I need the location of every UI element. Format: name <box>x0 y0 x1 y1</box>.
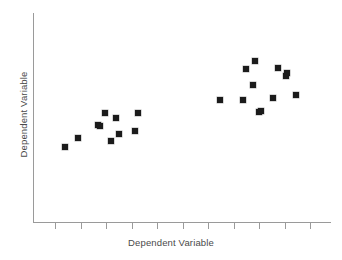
data-point <box>102 110 108 116</box>
data-point <box>132 128 138 134</box>
data-point <box>270 95 276 101</box>
data-point <box>97 123 103 129</box>
scatter-plot-figure: Dependent Variable Dependent Variable <box>0 0 342 260</box>
data-point <box>250 82 256 88</box>
data-point <box>275 65 281 71</box>
data-point <box>135 110 141 116</box>
data-point <box>258 108 264 114</box>
data-point <box>217 97 223 103</box>
data-point <box>113 115 119 121</box>
data-point <box>108 138 114 144</box>
data-point <box>284 70 290 76</box>
data-point <box>240 97 246 103</box>
data-point <box>75 135 81 141</box>
x-axis-label: Dependent Variable <box>0 237 342 248</box>
data-point <box>62 144 68 150</box>
data-point <box>116 131 122 137</box>
data-point <box>293 92 299 98</box>
data-point <box>252 58 258 64</box>
data-point <box>243 66 249 72</box>
y-axis-label: Dependent Variable <box>18 45 29 185</box>
plot-area <box>0 0 342 260</box>
